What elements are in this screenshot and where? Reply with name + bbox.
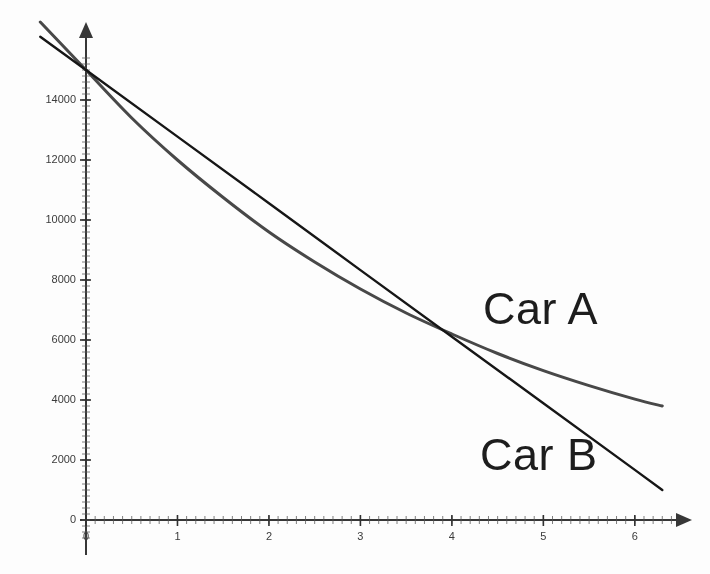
x-axis-arrow-icon	[676, 513, 692, 527]
y-tick-label-12000: 12000	[10, 153, 76, 165]
y-tick-label-0: 0	[10, 513, 76, 525]
x-tick-label-0: 0	[66, 530, 106, 542]
depreciation-chart: 02000400060008000100001200014000 0123456…	[0, 0, 710, 574]
series-path-car-b-extension	[40, 37, 86, 70]
chart-plot-area	[0, 0, 710, 574]
series-label-car-a: Car A	[483, 286, 598, 331]
series-label-car-b: Car B	[480, 432, 598, 477]
y-axis-arrow-icon	[79, 22, 93, 38]
series-path-car-a	[86, 70, 662, 406]
y-tick-label-4000: 4000	[10, 393, 76, 405]
series-group	[40, 22, 662, 490]
x-tick-label-2: 2	[249, 530, 289, 542]
x-tick-label-3: 3	[340, 530, 380, 542]
y-tick-label-14000: 14000	[10, 93, 76, 105]
x-tick-label-5: 5	[523, 530, 563, 542]
series-path-car-b	[86, 70, 662, 490]
x-tick-label-1: 1	[157, 530, 197, 542]
y-tick-label-6000: 6000	[10, 333, 76, 345]
y-tick-label-2000: 2000	[10, 453, 76, 465]
series-path-car-a-extension	[40, 22, 86, 70]
x-tick-label-4: 4	[432, 530, 472, 542]
x-tick-label-6: 6	[615, 530, 655, 542]
y-tick-label-8000: 8000	[10, 273, 76, 285]
y-tick-label-10000: 10000	[10, 213, 76, 225]
